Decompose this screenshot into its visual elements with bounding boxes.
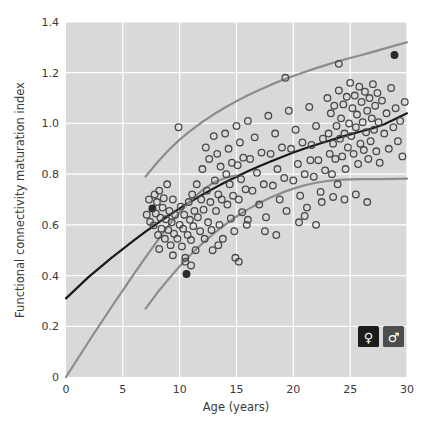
y-tick-label: 0: [52, 371, 59, 384]
y-tick-label: 0.8: [42, 168, 60, 181]
figure-container: 051015202530 00.20.40.60.81.01.21.4 Age …: [0, 0, 434, 435]
scatter-chart: 051015202530 00.20.40.60.81.01.21.4 Age …: [0, 0, 434, 435]
x-tick-label: 0: [63, 383, 70, 396]
y-tick-label: 1.2: [42, 67, 60, 80]
x-tick-label: 5: [119, 383, 126, 396]
y-tick-label: 1.4: [42, 16, 60, 29]
y-tick-label: 0.2: [42, 320, 60, 333]
y-axis-title: Functional connectivity maturation index: [13, 82, 27, 318]
y-tick-label: 1.0: [42, 117, 60, 130]
x-tick-label: 25: [343, 383, 357, 396]
x-axis-title: Age (years): [203, 400, 270, 414]
x-tick-label: 30: [400, 383, 414, 396]
male-icon: ♂: [388, 330, 400, 345]
female-icon: ♀: [364, 330, 374, 345]
y-tick-label: 0.6: [42, 219, 60, 232]
x-tick-label: 15: [230, 383, 244, 396]
y-tick-label: 0.4: [42, 270, 60, 283]
x-tick-label: 10: [173, 383, 187, 396]
x-tick-label: 20: [286, 383, 300, 396]
